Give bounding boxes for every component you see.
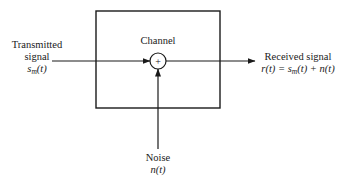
noise-label-text: Noise [128,152,188,164]
noise-label: Noise n(t) [128,152,188,176]
received-signal-label: Received signal r(t) = sm(t) + n(t) [258,51,338,78]
transmitted-label-line2: signal [6,51,68,63]
channel-label: Channel [128,35,188,47]
equation-lhs: r(t) = [261,63,287,74]
received-label-text: Received signal [258,51,338,63]
noise-math: n(t) [128,164,188,176]
plus-symbol: + [155,56,161,67]
transmitted-label-line1: Transmitted [6,39,68,51]
input-math-arg: (t) [37,63,47,74]
transmitted-signal-math: sm(t) [6,63,68,78]
received-signal-equation: r(t) = sm(t) + n(t) [258,63,338,78]
equation-rest: (t) + n(t) [297,63,334,74]
channel-label-text: Channel [141,35,176,46]
transmitted-signal-label: Transmitted signal sm(t) [6,39,68,78]
